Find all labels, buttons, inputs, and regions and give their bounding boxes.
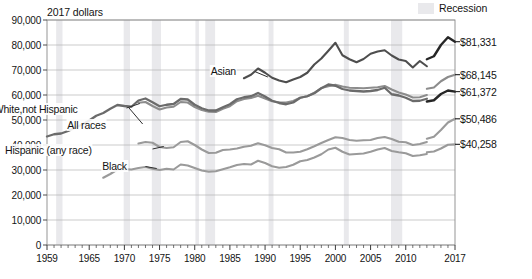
recession-band [269,20,274,245]
series-annotation: Black [101,160,128,172]
recession-band [344,20,349,245]
series-annotation: Hispanic (any race) [4,144,93,156]
series-line-asian-new [427,37,455,59]
series-annotation: White,not Hispanic [0,103,79,115]
series-line-all-races-new [427,91,455,102]
recession-bands [56,20,402,245]
x-tick-label: 1965 [78,253,99,264]
x-tick-label: 1970 [114,253,135,264]
series-annotation: Asian [210,65,237,77]
income-by-race-line-chart: Recession 2017 dollars 90,00080,00070,00… [0,0,532,279]
y-axis-ticks [43,20,47,245]
x-tick-label: 1959 [36,253,57,264]
x-tick-label: 1990 [254,253,275,264]
x-tick-label: 1980 [184,253,205,264]
recession-band [152,20,161,245]
end-value-label: $50,486 [460,113,497,125]
end-value-label: $61,372 [460,86,497,98]
x-tick-label: 2010 [395,253,416,264]
x-tick-label: 1995 [290,253,311,264]
x-axis-ticks [47,245,455,250]
recession-band [205,20,215,245]
end-value-label: $40,258 [460,138,497,150]
series-line-black-new [427,144,455,152]
end-value-label: $68,145 [460,69,497,81]
end-value-label: $81,331 [460,36,497,48]
leader-all-races [129,108,143,125]
recession-band [195,20,199,245]
x-tick-label: 1975 [149,253,170,264]
recession-band [124,20,130,245]
plot-area [0,0,532,279]
x-tick-label: 2005 [360,253,381,264]
x-tick-label: 2000 [325,253,346,264]
x-tick-label: 2017 [444,253,465,264]
series-annotation: All races [66,119,106,131]
x-tick-label: 1985 [219,253,240,264]
series-line-hispanic-new [427,119,455,139]
series-line-white-new [427,75,455,89]
recession-band [391,20,402,245]
